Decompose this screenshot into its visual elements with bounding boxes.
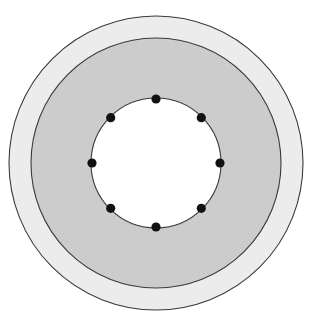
brake-drum-diagram [0, 0, 313, 324]
drawing-canvas [0, 0, 313, 324]
bolt-hole-3 [215, 158, 224, 167]
bolt-hole-8 [106, 113, 115, 122]
bolt-hole-4 [197, 204, 206, 213]
bolt-hole-7 [87, 158, 96, 167]
bolt-hole-6 [106, 204, 115, 213]
bolt-hole-5 [151, 222, 160, 231]
bolt-hole-2 [197, 113, 206, 122]
bolt-hole-1 [151, 94, 160, 103]
